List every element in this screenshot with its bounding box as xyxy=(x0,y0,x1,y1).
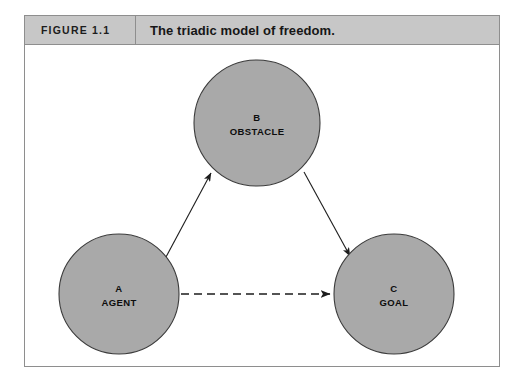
edge-obstacle-to-goal xyxy=(304,172,350,256)
edge-agent-to-obstacle xyxy=(166,173,211,257)
triadic-model-diagram: B OBSTACLE A AGENT C GOAL xyxy=(25,45,499,366)
figure-root: FIGURE 1.1 The triadic model of freedom. xyxy=(0,0,519,387)
figure-number-label: FIGURE 1.1 xyxy=(25,16,136,44)
figure-caption-bar: FIGURE 1.1 The triadic model of freedom. xyxy=(25,16,499,45)
node-agent-label: AGENT xyxy=(101,297,136,308)
diagram-canvas: B OBSTACLE A AGENT C GOAL xyxy=(25,45,499,366)
node-obstacle-label: OBSTACLE xyxy=(230,126,285,137)
figure-title: The triadic model of freedom. xyxy=(136,16,499,44)
figure-frame: FIGURE 1.1 The triadic model of freedom. xyxy=(24,15,500,367)
node-agent-letter: A xyxy=(115,283,122,294)
node-goal-circle xyxy=(334,234,454,354)
node-agent-circle xyxy=(59,234,179,354)
node-goal-label: GOAL xyxy=(379,297,408,308)
node-goal-letter: C xyxy=(390,283,397,294)
node-obstacle-circle xyxy=(194,60,320,186)
node-obstacle-letter: B xyxy=(253,112,260,123)
